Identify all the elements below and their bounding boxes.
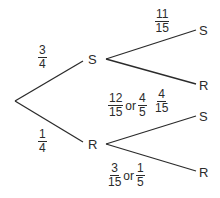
fraction: 12 15	[108, 93, 123, 118]
denominator: 15	[109, 106, 122, 118]
denominator: 4	[39, 58, 46, 70]
simplified-fraction: 1 5	[136, 163, 145, 188]
denominator: 15	[108, 176, 121, 188]
branch-root-to-r	[15, 101, 83, 142]
denominator: 5	[139, 106, 146, 118]
or-text: or	[123, 169, 134, 183]
node-level1-s: S	[88, 53, 97, 66]
probability-s: 3 4	[38, 45, 47, 70]
node-r-then-r: R	[199, 166, 208, 179]
probability-s-then-s: 11 15	[155, 9, 169, 34]
probability-r-then-r: 3 15 or 1 5	[108, 163, 145, 188]
branch-s-to-r	[106, 59, 196, 84]
probability-r: 1 4	[38, 129, 47, 154]
or-text: or	[125, 99, 136, 113]
node-s-then-r: R	[199, 79, 208, 92]
fraction: 3 15	[108, 163, 121, 188]
denominator: 15	[156, 22, 169, 34]
branch-s-to-s	[106, 30, 196, 59]
node-s-then-s: S	[199, 24, 208, 37]
node-level1-r: R	[88, 138, 97, 151]
denominator: 4	[39, 142, 46, 154]
probability-s-then-r: 4 15	[155, 89, 168, 114]
denominator: 15	[155, 102, 168, 114]
node-r-then-s: S	[199, 110, 208, 123]
denominator: 5	[137, 176, 144, 188]
branch-r-to-s	[106, 116, 196, 144]
simplified-fraction: 4 5	[138, 93, 147, 118]
probability-r-then-s: 12 15 or 4 5	[108, 93, 147, 118]
branch-root-to-s	[15, 61, 83, 101]
